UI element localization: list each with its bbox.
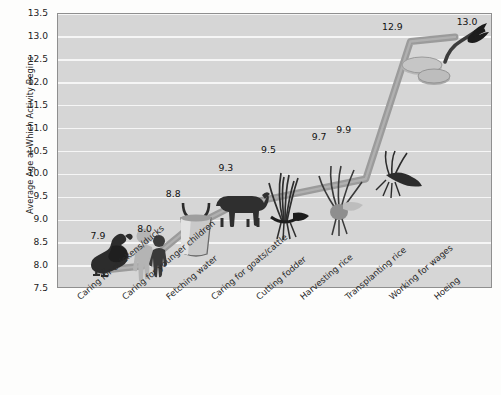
y-tick-label: 9.0 (8, 214, 48, 224)
data-label: 9.9 (336, 124, 351, 135)
line-chart: Average Age at Which Activity Begins 13.… (0, 0, 501, 395)
y-tick-label: 11.5 (8, 100, 48, 110)
hoe-icon (440, 20, 490, 70)
y-tick-label: 12.5 (8, 54, 48, 64)
y-tick-label: 8.0 (8, 260, 48, 270)
y-tick-label: 10.5 (8, 146, 48, 156)
y-tick-label: 8.5 (8, 237, 48, 247)
fodder-grass-icon (263, 169, 313, 241)
data-label: 9.3 (218, 162, 233, 173)
y-tick-label: 13.5 (8, 8, 48, 18)
y-tick-label: 7.5 (8, 283, 48, 293)
y-tick-label: 11.0 (8, 123, 48, 133)
y-tick-label: 13.0 (8, 31, 48, 41)
rice-transplant-icon (368, 149, 424, 205)
y-tick-label: 10.0 (8, 168, 48, 178)
data-label: 8.8 (166, 188, 181, 199)
y-tick-label: 12.0 (8, 77, 48, 87)
data-label: 12.9 (382, 21, 403, 32)
y-tick-label: 9.5 (8, 191, 48, 201)
data-label: 7.9 (91, 230, 106, 241)
rice-harvest-icon (313, 162, 367, 236)
data-label: 9.5 (261, 144, 276, 155)
data-label: 13.0 (457, 16, 478, 27)
data-label: 9.7 (312, 131, 327, 142)
